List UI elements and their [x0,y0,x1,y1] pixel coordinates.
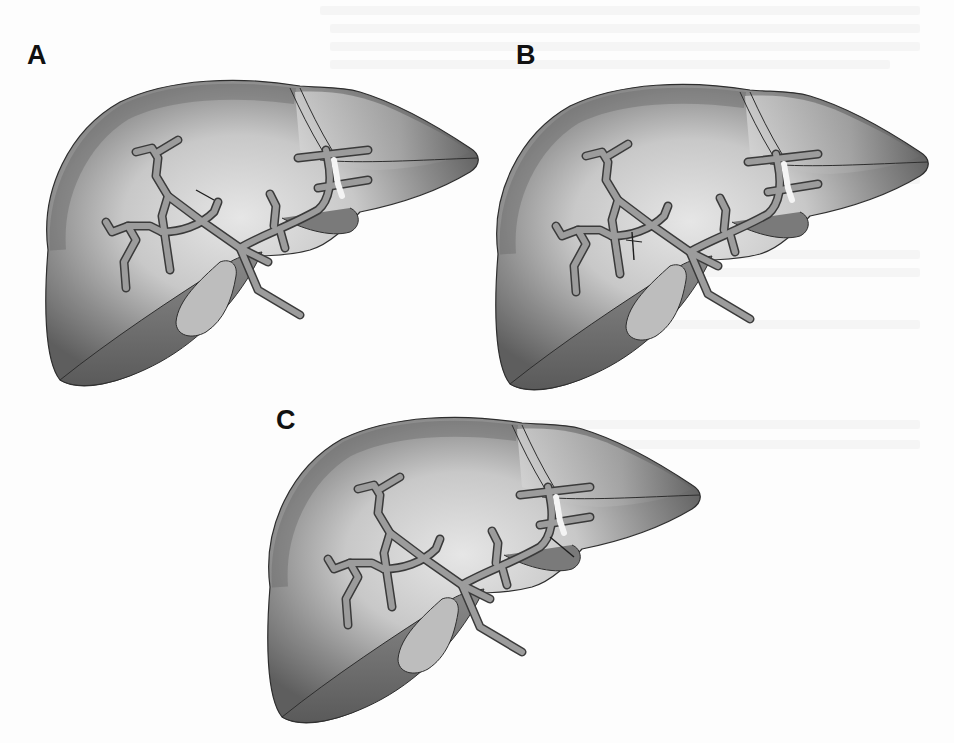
liver-biliary-tree-drawing [222,337,712,737]
liver-illustration-c [222,337,712,741]
